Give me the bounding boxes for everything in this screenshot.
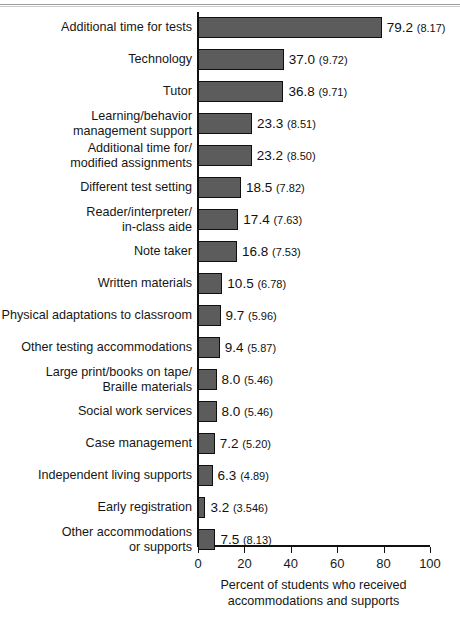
bar-value-label: 9.7 (5.96) bbox=[226, 307, 277, 325]
category-label: Early registration bbox=[0, 500, 192, 515]
bar-value-label: 79.2 (8.17) bbox=[387, 19, 446, 37]
bar-value-label: 17.4 (7.63) bbox=[243, 211, 302, 229]
bar-standard-error: (5.87) bbox=[247, 342, 276, 354]
bar-value-number: 16.8 bbox=[242, 244, 272, 259]
bar-standard-error: (9.72) bbox=[319, 54, 348, 66]
chart-row: Technology37.0 (9.72) bbox=[0, 44, 460, 76]
category-label: Large print/books on tape/ Braille mater… bbox=[0, 365, 192, 394]
bar bbox=[198, 497, 205, 518]
category-label: Independent living supports bbox=[0, 468, 192, 483]
bar-value-number: 9.4 bbox=[225, 340, 248, 355]
bar bbox=[198, 273, 222, 294]
bar-value-label: 23.2 (8.50) bbox=[257, 147, 316, 165]
bar-standard-error: (5.20) bbox=[242, 438, 271, 450]
bar bbox=[198, 145, 252, 166]
bar-value-label: 9.4 (5.87) bbox=[225, 339, 276, 357]
bar-value-label: 16.8 (7.53) bbox=[242, 243, 301, 261]
chart-row: Other testing accommodations9.4 (5.87) bbox=[0, 332, 460, 364]
category-label: Additional time for/ modified assignment… bbox=[0, 141, 192, 170]
bar-value-label: 37.0 (9.72) bbox=[289, 51, 348, 69]
bar-value-number: 9.7 bbox=[226, 308, 249, 323]
bar-value-number: 18.5 bbox=[246, 180, 276, 195]
bar-standard-error: (7.63) bbox=[273, 214, 302, 226]
chart-row: Tutor36.8 (9.71) bbox=[0, 76, 460, 108]
category-label: Reader/interpreter/ in-class aide bbox=[0, 205, 192, 234]
bar-standard-error: (5.46) bbox=[244, 374, 273, 386]
bar-standard-error: (6.78) bbox=[257, 278, 286, 290]
x-axis-tick-label: 100 bbox=[400, 556, 460, 571]
bar-standard-error: (5.96) bbox=[248, 310, 277, 322]
bar bbox=[198, 241, 237, 262]
plot-area: 020406080100Additional time for tests79.… bbox=[0, 0, 460, 618]
chart-row: Written materials10.5 (6.78) bbox=[0, 268, 460, 300]
bar bbox=[198, 305, 221, 326]
chart-row: Social work services8.0 (5.46) bbox=[0, 396, 460, 428]
chart-row: Additional time for/ modified assignment… bbox=[0, 140, 460, 172]
bar-standard-error: (4.89) bbox=[240, 470, 269, 482]
bar-value-label: 7.2 (5.20) bbox=[220, 435, 271, 453]
chart-row: Physical adaptations to classroom9.7 (5.… bbox=[0, 300, 460, 332]
bar-value-label: 23.3 (8.51) bbox=[257, 115, 316, 133]
bar-value-label: 3.2 (3.546) bbox=[210, 499, 267, 517]
bar bbox=[198, 17, 382, 38]
chart-row: Independent living supports6.3 (4.89) bbox=[0, 460, 460, 492]
bar bbox=[198, 81, 283, 102]
bar-value-number: 23.2 bbox=[257, 148, 287, 163]
bar-value-number: 10.5 bbox=[227, 276, 257, 291]
bar-value-label: 6.3 (4.89) bbox=[218, 467, 269, 485]
bar-value-number: 37.0 bbox=[289, 52, 319, 67]
category-label: Technology bbox=[0, 52, 192, 67]
bar-value-number: 7.5 bbox=[220, 532, 243, 547]
bar bbox=[198, 465, 213, 486]
bar bbox=[198, 177, 241, 198]
bar-value-number: 36.8 bbox=[288, 84, 318, 99]
bar-standard-error: (8.17) bbox=[417, 22, 446, 34]
bar bbox=[198, 49, 284, 70]
bar-standard-error: (9.71) bbox=[318, 86, 347, 98]
bar-value-number: 6.3 bbox=[218, 468, 241, 483]
bar-standard-error: (7.82) bbox=[276, 182, 305, 194]
bar-value-number: 79.2 bbox=[387, 20, 417, 35]
bar-standard-error: (8.51) bbox=[287, 118, 316, 130]
category-label: Tutor bbox=[0, 84, 192, 99]
chart-row: Different test setting18.5 (7.82) bbox=[0, 172, 460, 204]
bar-value-number: 8.0 bbox=[222, 372, 245, 387]
category-label: Different test setting bbox=[0, 180, 192, 195]
chart-row: Large print/books on tape/ Braille mater… bbox=[0, 364, 460, 396]
chart-row: Early registration3.2 (3.546) bbox=[0, 492, 460, 524]
bar-standard-error: (8.13) bbox=[243, 534, 272, 546]
bar-value-number: 7.2 bbox=[220, 436, 243, 451]
bar-value-number: 8.0 bbox=[222, 404, 245, 419]
category-label: Social work services bbox=[0, 404, 192, 419]
category-label: Additional time for tests bbox=[0, 20, 192, 35]
chart-row: Other accommodations or supports7.5 (8.1… bbox=[0, 524, 460, 556]
bar-value-number: 17.4 bbox=[243, 212, 273, 227]
bar-value-number: 3.2 bbox=[210, 500, 233, 515]
bar-value-label: 18.5 (7.82) bbox=[246, 179, 305, 197]
chart-row: Additional time for tests79.2 (8.17) bbox=[0, 12, 460, 44]
bar bbox=[198, 529, 215, 550]
bar bbox=[198, 209, 238, 230]
chart-row: Case management7.2 (5.20) bbox=[0, 428, 460, 460]
chart-row: Learning/behavior management support23.3… bbox=[0, 108, 460, 140]
bar-value-label: 8.0 (5.46) bbox=[222, 403, 273, 421]
category-label: Note taker bbox=[0, 244, 192, 259]
bar-value-label: 10.5 (6.78) bbox=[227, 275, 286, 293]
x-axis-title: Percent of students who received accommo… bbox=[197, 578, 430, 609]
bar-value-number: 23.3 bbox=[257, 116, 287, 131]
bar-value-label: 36.8 (9.71) bbox=[288, 83, 347, 101]
bar-standard-error: (5.46) bbox=[244, 406, 273, 418]
bar bbox=[198, 337, 220, 358]
chart-row: Note taker16.8 (7.53) bbox=[0, 236, 460, 268]
category-label: Physical adaptations to classroom bbox=[0, 308, 192, 323]
category-label: Learning/behavior management support bbox=[0, 109, 192, 138]
bar-value-label: 8.0 (5.46) bbox=[222, 371, 273, 389]
category-label: Other testing accommodations bbox=[0, 340, 192, 355]
bar-standard-error: (3.546) bbox=[233, 502, 268, 514]
chart-row: Reader/interpreter/ in-class aide17.4 (7… bbox=[0, 204, 460, 236]
bar-value-label: 7.5 (8.13) bbox=[220, 531, 271, 549]
category-label: Written materials bbox=[0, 276, 192, 291]
bar bbox=[198, 113, 252, 134]
bar bbox=[198, 369, 217, 390]
bar-chart-figure: 020406080100Additional time for tests79.… bbox=[0, 0, 460, 618]
